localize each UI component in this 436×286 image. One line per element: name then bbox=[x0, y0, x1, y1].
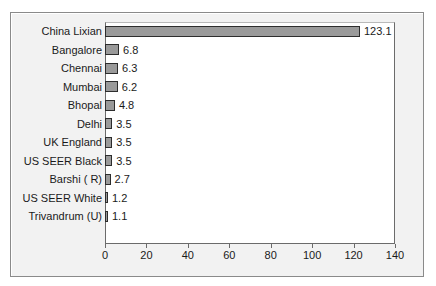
bar-chart-figure: China LixianBangaloreChennaiMumbaiBhopal… bbox=[0, 0, 436, 286]
bars-container: 123.16.86.36.24.83.53.53.52.71.21.1 bbox=[105, 22, 395, 244]
bar-value-label: 4.8 bbox=[119, 96, 134, 115]
bar-row: 1.2 bbox=[105, 189, 395, 208]
bar-value-label: 3.5 bbox=[116, 152, 131, 171]
x-axis-tick bbox=[146, 244, 147, 248]
y-axis-label: Delhi bbox=[14, 115, 102, 134]
x-axis-tick bbox=[271, 244, 272, 248]
bar-value-label: 3.5 bbox=[116, 133, 131, 152]
bar-row: 6.2 bbox=[105, 78, 395, 97]
y-axis-label: Bhopal bbox=[14, 96, 102, 115]
y-axis-label: US SEER Black bbox=[14, 152, 102, 171]
x-axis-tick bbox=[312, 244, 313, 248]
bar bbox=[105, 100, 115, 111]
bar-row: 2.7 bbox=[105, 170, 395, 189]
bar-value-label: 1.2 bbox=[112, 189, 127, 208]
bar-value-label: 1.1 bbox=[112, 207, 127, 226]
bar bbox=[105, 155, 112, 166]
bar-value-label: 6.2 bbox=[122, 78, 137, 97]
bar-value-label: 123.1 bbox=[364, 22, 392, 41]
x-axis-tick-label: 60 bbox=[223, 249, 235, 261]
x-axis-tick-label: 100 bbox=[303, 249, 321, 261]
y-axis-label: Mumbai bbox=[14, 78, 102, 97]
bar-value-label: 6.3 bbox=[122, 59, 137, 78]
y-axis-label: China Lixian bbox=[14, 22, 102, 41]
x-axis-tick bbox=[395, 244, 396, 248]
bar bbox=[105, 26, 360, 37]
x-axis-tick-label: 0 bbox=[102, 249, 108, 261]
x-axis-tick-label: 80 bbox=[265, 249, 277, 261]
bar-row: 3.5 bbox=[105, 133, 395, 152]
y-axis-label: Bangalore bbox=[14, 41, 102, 60]
bar-value-label: 2.7 bbox=[115, 170, 130, 189]
y-axis-label: US SEER White bbox=[14, 189, 102, 208]
y-axis-category-labels: China LixianBangaloreChennaiMumbaiBhopal… bbox=[14, 22, 102, 244]
bar bbox=[105, 174, 111, 185]
y-axis-label: UK England bbox=[14, 133, 102, 152]
bar bbox=[105, 81, 118, 92]
bar bbox=[105, 63, 118, 74]
bar-row: 3.5 bbox=[105, 152, 395, 171]
y-axis-label: Chennai bbox=[14, 59, 102, 78]
x-axis-tick-label: 40 bbox=[182, 249, 194, 261]
bar bbox=[105, 118, 112, 129]
y-axis-label: Trivandrum (U) bbox=[14, 207, 102, 226]
bar bbox=[105, 211, 108, 222]
y-axis-label: Barshi ( R) bbox=[14, 170, 102, 189]
bar-value-label: 6.8 bbox=[123, 41, 138, 60]
bar-row: 1.1 bbox=[105, 207, 395, 226]
x-axis-tick bbox=[105, 244, 106, 248]
bar-row: 123.1 bbox=[105, 22, 395, 41]
x-axis-tick bbox=[354, 244, 355, 248]
bar-row: 6.3 bbox=[105, 59, 395, 78]
x-axis-tick-label: 140 bbox=[386, 249, 404, 261]
x-axis-tick bbox=[188, 244, 189, 248]
bar bbox=[105, 137, 112, 148]
bar bbox=[105, 192, 108, 203]
bar-row: 3.5 bbox=[105, 115, 395, 134]
x-axis-tick bbox=[229, 244, 230, 248]
x-axis-tick-label: 120 bbox=[344, 249, 362, 261]
bar-row: 4.8 bbox=[105, 96, 395, 115]
x-axis-tick-label: 20 bbox=[140, 249, 152, 261]
x-axis: 020406080100120140 bbox=[105, 244, 396, 268]
bar-value-label: 3.5 bbox=[116, 115, 131, 134]
bar bbox=[105, 44, 119, 55]
bar-row: 6.8 bbox=[105, 41, 395, 60]
